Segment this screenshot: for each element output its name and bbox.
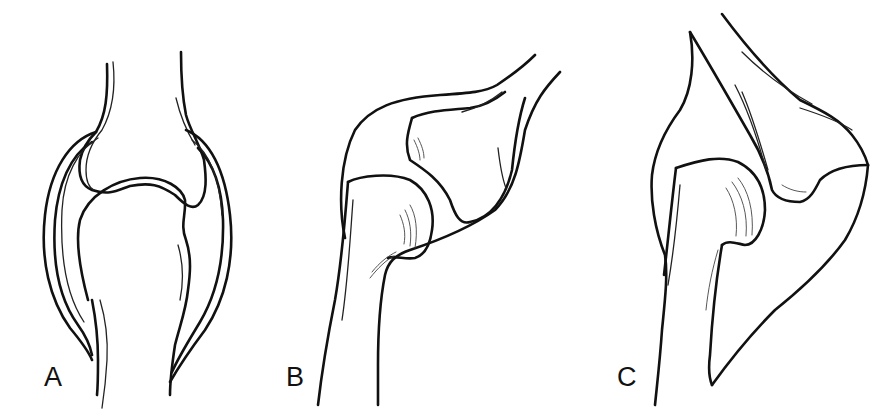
panel-c-drawing: [652, 14, 868, 405]
panel-label-c: C: [617, 364, 637, 391]
panel-label-b: B: [286, 364, 304, 391]
joint-diagrams: [0, 0, 896, 420]
figure-canvas: A B C: [0, 0, 896, 420]
panel-b-drawing: [318, 55, 560, 405]
panel-a-drawing: [44, 52, 232, 408]
panel-label-a: A: [44, 364, 62, 391]
